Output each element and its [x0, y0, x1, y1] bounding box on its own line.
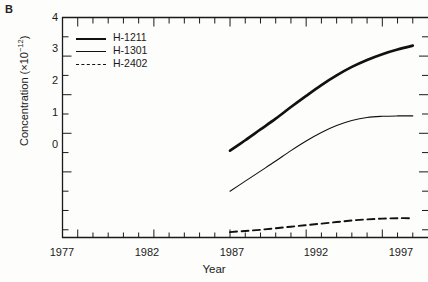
legend-label-h1301: H-1301 [113, 45, 147, 56]
series-line-h-1211 [230, 46, 413, 151]
legend-entry-h1211: H-1211 [76, 31, 147, 44]
legend: H-1211 H-1301 H-2402 [76, 31, 147, 70]
top-axis-ticks [78, 18, 413, 27]
legend-swatch-thick-line-icon [76, 33, 106, 42]
series-line-h-2402 [230, 218, 413, 232]
legend-label-h2402: H-2402 [113, 58, 147, 69]
data-series-group [230, 46, 413, 232]
plot-area [0, 0, 428, 282]
figure-panel-b: B Concentration (×10−12) Year 4 3 2 1 0 … [0, 0, 428, 282]
legend-swatch-dashed-line-icon [76, 59, 106, 68]
legend-swatch-thin-line-icon [76, 46, 106, 55]
legend-entry-h2402: H-2402 [76, 57, 147, 70]
legend-label-h1211: H-1211 [113, 32, 147, 43]
legend-entry-h1301: H-1301 [76, 44, 147, 57]
series-line-h-1301 [230, 116, 413, 191]
